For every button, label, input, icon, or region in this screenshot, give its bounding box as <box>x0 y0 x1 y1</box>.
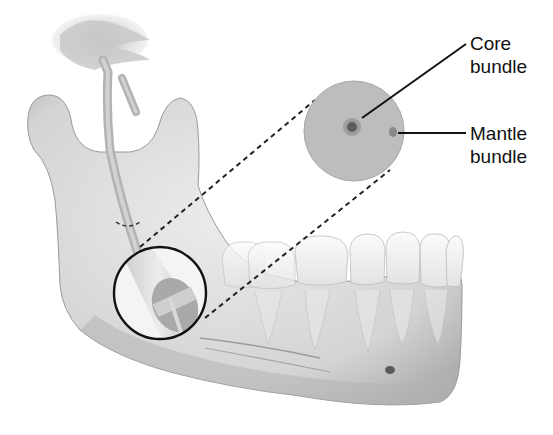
mantle-label-line1: Mantle <box>470 122 527 145</box>
nerve-cross-section <box>304 81 404 181</box>
core-label-line2: bundle <box>470 55 527 78</box>
core-leader <box>362 44 466 118</box>
core-label-line1: Core <box>470 32 527 55</box>
mantle-bundle <box>389 127 397 137</box>
mental-foramen <box>385 366 395 374</box>
mantle-label-line2: bundle <box>470 145 527 168</box>
core-bundle-label: Core bundle <box>470 32 527 78</box>
mantle-bundle-label: Mantle bundle <box>470 122 527 168</box>
